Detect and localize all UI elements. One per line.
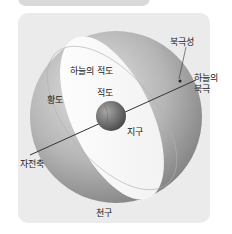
label-rotation-axis: 자전축: [20, 159, 44, 169]
celestial-sphere-diagram: [0, 0, 232, 234]
north-pole-dot: [179, 80, 182, 83]
label-equator: 적도: [97, 88, 113, 98]
label-north-celestial-pole-2: 북극: [194, 84, 210, 94]
label-ecliptic: 황도: [47, 95, 63, 105]
earth-globe: [96, 101, 126, 131]
label-celestial-sphere: 천구: [96, 208, 112, 218]
label-celestial-equator: 하늘의 적도: [70, 66, 113, 76]
label-polaris: 북극성: [170, 37, 194, 47]
label-earth: 지구: [127, 127, 143, 137]
label-north-celestial-pole-1: 하늘의: [194, 73, 218, 83]
